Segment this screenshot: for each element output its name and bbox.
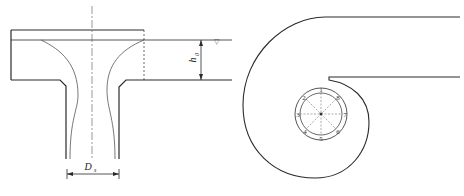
probe-label-4: 4: [303, 128, 307, 136]
spiral-volute-outline: [243, 17, 460, 178]
arrow-right-icon: [113, 172, 119, 176]
spiral-intake-diagram: [243, 17, 460, 178]
svg-text:h: h: [187, 58, 198, 63]
center-point: [320, 113, 322, 115]
diameter-label: D: [83, 161, 92, 172]
diameter-subscript: s: [94, 167, 97, 173]
probe-label-3: 3: [296, 111, 300, 119]
tank-bottom-right: [119, 80, 232, 159]
probe-label-1: 1: [319, 86, 323, 94]
probe-label-7: 7: [343, 111, 347, 119]
arrow-down-icon: [199, 74, 203, 80]
svg-text:0: 0: [194, 53, 200, 56]
probe-label-8: 8: [336, 94, 340, 102]
intake-section-diagram: [11, 6, 232, 179]
water-level-symbol: ▽: [214, 38, 220, 46]
arrow-up-icon: [199, 40, 203, 46]
tank-bottom-left: [11, 80, 66, 159]
probe-label-5: 5: [319, 135, 323, 143]
probe-label-2: 2: [302, 94, 306, 102]
vortex-profile-left: [41, 40, 78, 159]
probe-label-6: 6: [336, 128, 340, 136]
submergence-label: h 0: [187, 53, 200, 63]
arrow-left-icon: [67, 172, 73, 176]
diagram-canvas: ▽ h 0 D s 1 2 3 4 5 6 7 8: [0, 0, 464, 196]
vortex-profile-right: [107, 40, 144, 159]
